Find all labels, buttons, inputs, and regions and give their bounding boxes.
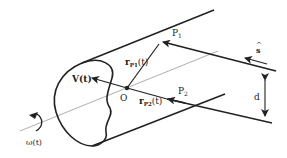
label-p2: P2 — [178, 86, 188, 97]
label-velocity: V(t) — [71, 74, 92, 84]
diagram-canvas: P1 P2 rP1(t) rP2(t) V(t) O ω(t) ^ s d — [0, 0, 287, 158]
label-r-p1: rP1(t) — [125, 57, 148, 68]
rotation-arrowhead-icon — [29, 112, 38, 119]
label-origin: O — [120, 93, 127, 103]
origin-point — [125, 86, 129, 90]
label-s-hat: s — [256, 45, 261, 55]
label-distance: d — [254, 92, 260, 102]
ray-p2-arrow — [168, 99, 185, 103]
rotation-axis — [20, 51, 218, 131]
label-omega: ω(t) — [26, 138, 42, 147]
label-p1: P1 — [172, 28, 182, 39]
cylinder-top-edge — [82, 10, 214, 63]
label-r-p2: rP2(t) — [139, 96, 162, 107]
